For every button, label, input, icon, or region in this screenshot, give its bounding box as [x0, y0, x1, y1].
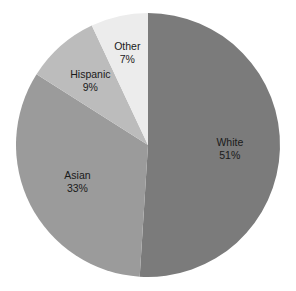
slice-label-name: White: [216, 136, 243, 148]
slice-label-value: 51%: [219, 149, 240, 161]
slice-label-name: Other: [114, 40, 141, 52]
slice-label-value: 9%: [83, 81, 98, 93]
slice-label-value: 7%: [120, 53, 135, 65]
pie-slice-white: [140, 13, 280, 277]
slice-label-name: Asian: [64, 169, 90, 181]
pie-chart: White51%Asian33%Hispanic9%Other7%: [0, 0, 296, 291]
slice-label-name: Hispanic: [70, 68, 110, 80]
slice-label-value: 33%: [67, 182, 88, 194]
